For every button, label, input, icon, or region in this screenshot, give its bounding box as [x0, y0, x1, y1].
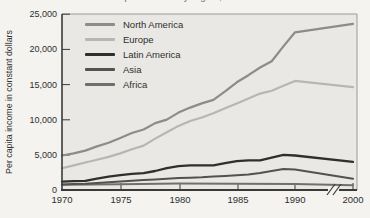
legend-item-north-america: North America [85, 17, 183, 31]
legend-label-africa: Africa [123, 79, 147, 90]
x-tick-label-1975: 1975 [104, 194, 138, 205]
legend-item-latin-america: Latin America [85, 47, 181, 61]
legend-item-africa: Africa [85, 77, 147, 91]
y-tick-label-10000: 10,000 [14, 115, 57, 125]
x-tick-label-1980: 1980 [163, 194, 197, 205]
legend-swatch-north-america [85, 23, 115, 26]
x-tick-label-1985: 1985 [221, 194, 255, 205]
x-tick-label-1990: 1990 [278, 194, 312, 205]
legend-label-europe: Europe [123, 34, 154, 45]
x-tick-label-1970: 1970 [45, 194, 79, 205]
legend-swatch-africa [85, 83, 115, 86]
chart-figure: Per capita income by region, 1970–2000 [0, 0, 370, 218]
legend-label-latin-america: Latin America [123, 49, 181, 60]
legend-label-asia: Asia [123, 64, 141, 75]
legend-item-europe: Europe [85, 32, 154, 46]
x-tick-label-2000: 2000 [336, 194, 370, 205]
y-axis-title: Per capita income in constant dollars [4, 30, 14, 174]
legend-label-north-america: North America [123, 19, 183, 30]
legend-item-asia: Asia [85, 62, 141, 76]
legend-swatch-asia [85, 68, 115, 71]
y-tick-label-20000: 20,000 [14, 44, 57, 54]
legend-swatch-europe [85, 38, 115, 41]
y-tick-label-5000: 5,000 [14, 150, 57, 160]
legend-swatch-latin-america [85, 53, 115, 56]
y-tick-label-15000: 15,000 [14, 80, 57, 90]
y-tick-label-25000: 25,000 [14, 9, 57, 19]
